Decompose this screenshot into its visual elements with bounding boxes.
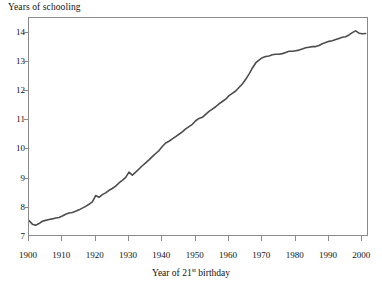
x-tick-mark [228, 236, 229, 241]
x-tick-mark [95, 236, 96, 241]
y-axis-title: Years of schooling [8, 2, 81, 12]
x-tick-mark [261, 236, 262, 241]
y-tick-label: 12 [5, 85, 25, 95]
y-tick-mark [24, 32, 29, 33]
x-tick-mark [28, 236, 29, 241]
y-tick-mark [24, 178, 29, 179]
x-axis-title: Year of 21st birthday [0, 268, 382, 278]
x-tick-mark [328, 236, 329, 241]
y-tick-mark [24, 148, 29, 149]
y-tick-label: 9 [5, 173, 25, 183]
y-tick-label: 14 [5, 27, 25, 37]
y-tick-mark [24, 119, 29, 120]
x-tick-mark [361, 236, 362, 241]
x-tick-mark [295, 236, 296, 241]
chart-figure: Years of schooling 7891011121314 1900191… [0, 0, 382, 286]
x-tick-label: 2000 [341, 250, 381, 260]
schooling-line [29, 31, 366, 225]
line-series [29, 18, 369, 237]
x-tick-mark [61, 236, 62, 241]
y-tick-label: 11 [5, 114, 25, 124]
y-tick-label: 8 [5, 202, 25, 212]
y-tick-mark [24, 207, 29, 208]
y-tick-label: 13 [5, 56, 25, 66]
x-axis-title-tail: birthday [196, 268, 230, 278]
plot-area [28, 17, 368, 236]
x-axis-title-base: Year of 21 [152, 268, 192, 278]
y-tick-label: 7 [5, 231, 25, 241]
y-tick-mark [24, 61, 29, 62]
y-tick-mark [24, 90, 29, 91]
y-tick-label: 10 [5, 143, 25, 153]
x-tick-mark [128, 236, 129, 241]
x-tick-mark [195, 236, 196, 241]
x-tick-mark [161, 236, 162, 241]
